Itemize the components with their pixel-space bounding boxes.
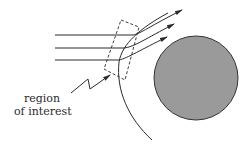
ray-2: [55, 24, 174, 48]
region-of-interest-label: region of interest: [14, 92, 70, 118]
region-of-interest-box: [104, 20, 139, 80]
diagram-canvas: [0, 0, 250, 149]
label-line-1: region: [14, 92, 70, 105]
obstacle-circle: [154, 36, 238, 120]
label-line-2: of interest: [14, 105, 70, 118]
pointer-arrow: [71, 75, 110, 93]
ray-1: [55, 10, 182, 35]
